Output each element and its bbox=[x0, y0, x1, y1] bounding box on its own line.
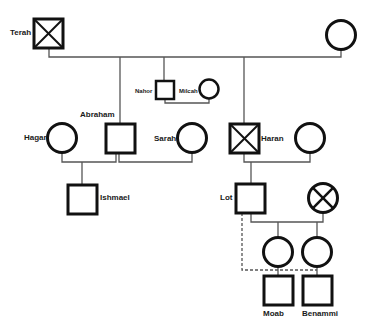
label-haran: Haran bbox=[261, 135, 284, 143]
abraham-symbol[interactable] bbox=[106, 124, 135, 153]
label-terah: Terah bbox=[10, 29, 31, 37]
label-ishmael: Ishmael bbox=[100, 194, 130, 202]
label-benammi: Benammi bbox=[302, 310, 338, 318]
label-hagar: Hagar bbox=[24, 134, 47, 142]
benammi-symbol[interactable] bbox=[303, 276, 332, 305]
milcah-symbol[interactable] bbox=[200, 80, 219, 99]
pedigree-diagram bbox=[0, 0, 370, 333]
label-abraham: Abraham bbox=[80, 111, 115, 119]
lot-wife-symbol[interactable] bbox=[309, 184, 338, 213]
daughter1-symbol[interactable] bbox=[264, 238, 293, 267]
connector-lines bbox=[49, 48, 341, 276]
haran-wife-symbol[interactable] bbox=[296, 124, 325, 153]
lot-symbol[interactable] bbox=[236, 184, 265, 213]
label-milcah: Milcah bbox=[179, 88, 198, 94]
hagar-symbol[interactable] bbox=[48, 124, 77, 153]
label-nahor: Nahor bbox=[135, 88, 152, 94]
moab-symbol[interactable] bbox=[264, 276, 293, 305]
daughter2-symbol[interactable] bbox=[303, 238, 332, 267]
label-sarah: Sarah bbox=[154, 135, 176, 143]
label-lot: Lot bbox=[220, 194, 232, 202]
label-moab: Moab bbox=[263, 310, 284, 318]
terah-union-line bbox=[49, 48, 341, 57]
terah-wife-symbol[interactable] bbox=[327, 21, 356, 50]
haran-symbol[interactable] bbox=[230, 124, 259, 153]
ishmael-symbol[interactable] bbox=[68, 185, 97, 214]
sarah-symbol[interactable] bbox=[178, 124, 207, 153]
terah-symbol[interactable] bbox=[34, 19, 63, 48]
nahor-symbol[interactable] bbox=[156, 81, 174, 99]
